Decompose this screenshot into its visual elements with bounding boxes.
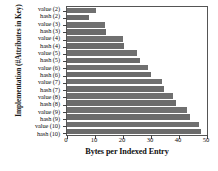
y-tick-label: hash (4) bbox=[16, 42, 62, 49]
bar-slot bbox=[67, 129, 207, 135]
y-tick-mark bbox=[63, 47, 67, 48]
y-tick-label: value (9) bbox=[16, 108, 62, 115]
y-tick-mark bbox=[63, 83, 67, 84]
bar-slot bbox=[67, 86, 207, 92]
y-tick-label: value (7) bbox=[16, 78, 62, 85]
bar-slot bbox=[67, 50, 207, 56]
bar bbox=[67, 122, 199, 128]
bar bbox=[67, 129, 201, 135]
bar-chart: Implementation (#Attributes in Key) valu… bbox=[0, 0, 218, 171]
y-tick-mark bbox=[63, 61, 67, 62]
bar-slot bbox=[67, 93, 207, 99]
y-tick-mark bbox=[63, 112, 67, 113]
bar bbox=[67, 58, 140, 64]
bar bbox=[67, 22, 105, 28]
y-tick-mark bbox=[63, 126, 67, 127]
y-tick-mark bbox=[63, 119, 67, 120]
y-tick-mark bbox=[63, 25, 67, 26]
y-tick-mark bbox=[63, 32, 67, 33]
bar-series bbox=[67, 7, 207, 135]
bar bbox=[67, 93, 173, 99]
bar-slot bbox=[67, 43, 207, 49]
bar bbox=[67, 8, 96, 14]
y-tick-label: hash (9) bbox=[16, 115, 62, 122]
y-tick-label: value (5) bbox=[16, 49, 62, 56]
y-tick-mark bbox=[63, 18, 67, 19]
bar bbox=[67, 100, 176, 106]
x-tick-label: 30 bbox=[147, 136, 154, 143]
y-tick-label: hash (8) bbox=[16, 100, 62, 107]
y-tick-label: hash (5) bbox=[16, 56, 62, 63]
y-tick-mark bbox=[63, 105, 67, 106]
y-axis-tick-labels: value (2)hash (2)value (3)hash (3)value … bbox=[16, 5, 62, 137]
bar-slot bbox=[67, 107, 207, 113]
bar bbox=[67, 72, 151, 78]
bar bbox=[67, 36, 123, 42]
x-tick-label: 50 bbox=[203, 136, 210, 143]
y-tick-mark bbox=[63, 11, 67, 12]
y-tick-mark bbox=[63, 97, 67, 98]
plot-area bbox=[66, 6, 208, 136]
bar-slot bbox=[67, 36, 207, 42]
bar-slot bbox=[67, 79, 207, 85]
bar-slot bbox=[67, 65, 207, 71]
y-tick-mark bbox=[63, 90, 67, 91]
y-tick-label: value (6) bbox=[16, 64, 62, 71]
y-tick-label: hash (7) bbox=[16, 86, 62, 93]
bar-slot bbox=[67, 15, 207, 21]
bar-slot bbox=[67, 58, 207, 64]
x-tick-label: 10 bbox=[91, 136, 98, 143]
y-tick-mark bbox=[63, 76, 67, 77]
y-tick-label: value (4) bbox=[16, 34, 62, 41]
x-tick-label: 0 bbox=[64, 136, 67, 143]
x-tick-label: 40 bbox=[175, 136, 182, 143]
x-tick-label: 20 bbox=[119, 136, 126, 143]
bar-slot bbox=[67, 122, 207, 128]
y-tick-label: value (8) bbox=[16, 93, 62, 100]
y-tick-label: hash (3) bbox=[16, 27, 62, 34]
bar-slot bbox=[67, 8, 207, 14]
bar-slot bbox=[67, 100, 207, 106]
x-axis-title: Bytes per Indexed Entry bbox=[0, 147, 218, 156]
bar bbox=[67, 50, 137, 56]
bar bbox=[67, 79, 162, 85]
bar bbox=[67, 107, 187, 113]
y-tick-mark bbox=[63, 68, 67, 69]
y-tick-mark bbox=[63, 54, 67, 55]
y-tick-label: hash (6) bbox=[16, 71, 62, 78]
y-tick-label: value (10) bbox=[16, 122, 62, 129]
bar-slot bbox=[67, 72, 207, 78]
bar bbox=[67, 114, 190, 120]
y-tick-label: value (3) bbox=[16, 20, 62, 27]
y-tick-label: value (2) bbox=[16, 5, 62, 12]
bar bbox=[67, 29, 106, 35]
y-tick-mark bbox=[63, 40, 67, 41]
bar bbox=[67, 15, 89, 21]
bar bbox=[67, 86, 164, 92]
bar bbox=[67, 43, 124, 49]
y-tick-label: hash (2) bbox=[16, 12, 62, 19]
bar-slot bbox=[67, 114, 207, 120]
bar-slot bbox=[67, 29, 207, 35]
bar-slot bbox=[67, 22, 207, 28]
bar bbox=[67, 65, 148, 71]
